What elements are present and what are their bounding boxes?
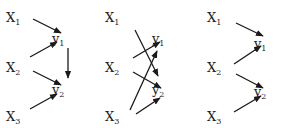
diagram-left: X1X2X3y1y2	[6, 10, 68, 126]
path-diagrams: X1X2X3y1y2 X1X2X3y1y2 X1X2X3y1y2	[0, 0, 293, 128]
node-x1: X1	[6, 10, 20, 27]
edge-x1-y1-arrow-icon	[236, 23, 263, 36]
node-y2: y2	[51, 82, 64, 99]
diagram-middle: X1X2X3y1y2	[105, 10, 164, 126]
node-x3: X3	[6, 109, 20, 126]
node-y1: y1	[151, 31, 164, 48]
node-x1: X1	[207, 10, 221, 27]
node-y1: y1	[253, 36, 266, 53]
diagram-right: X1X2X3y1y2	[207, 10, 266, 126]
edge-x3-y2-arrow-icon	[136, 98, 160, 114]
node-y2: y2	[151, 82, 164, 99]
node-x1: X1	[105, 10, 119, 27]
node-x3: X3	[105, 109, 119, 126]
node-x2: X2	[105, 60, 119, 77]
node-x3: X3	[207, 109, 221, 126]
node-x2: X2	[6, 60, 20, 77]
node-x2: X2	[207, 60, 221, 77]
node-y1: y1	[51, 31, 64, 48]
edge-x3-y1-arrow-icon	[130, 51, 157, 110]
node-y2: y2	[253, 84, 266, 101]
